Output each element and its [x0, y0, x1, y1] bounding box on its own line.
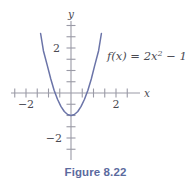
x-tick-label-2: 2 [113, 98, 120, 111]
equation-suffix: − 1 [163, 49, 187, 63]
y-axis-label: y [67, 8, 75, 20]
x-axis-label: x [144, 87, 150, 99]
figure-container: x y −2 2 2 −2 f(x) = 2x2 − 1 Figure 8.22 [0, 0, 191, 191]
figure-caption: Figure 8.22 [0, 166, 191, 178]
x-tick-label-negative-2: −2 [18, 98, 34, 111]
equation-prefix: f(x) = 2x [106, 49, 158, 63]
coordinate-plot: x y −2 2 2 −2 f(x) = 2x2 − 1 [0, 0, 191, 165]
plot-area: x y −2 2 2 −2 f(x) = 2x2 − 1 [0, 0, 191, 165]
y-tick-label-2: 2 [53, 42, 60, 55]
function-equation-label: f(x) = 2x2 − 1 [106, 49, 187, 63]
y-tick-label-negative-2: −2 [46, 132, 62, 145]
